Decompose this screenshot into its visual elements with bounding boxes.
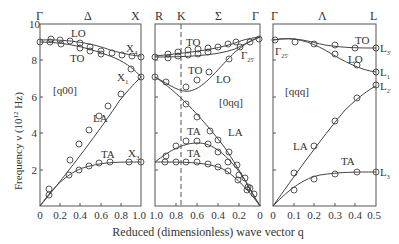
svg-text:X1: X1 xyxy=(117,71,129,86)
svg-text:K: K xyxy=(177,9,186,23)
svg-text:TA: TA xyxy=(187,125,201,137)
svg-text:TO: TO xyxy=(355,34,370,46)
svg-text:TO: TO xyxy=(186,36,201,48)
svg-text:TO: TO xyxy=(70,52,85,64)
svg-text:0.1: 0.1 xyxy=(287,209,301,221)
svg-text:0.6: 0.6 xyxy=(94,209,108,221)
y-axis-label: Frequency ν (1012 Hz) xyxy=(12,92,25,190)
svg-text:L2': L2' xyxy=(380,80,391,94)
phonon-dispersion-chart: 2 4 6 8 10 Frequency ν (1012 Hz) 00.2 0.… xyxy=(0,0,399,244)
svg-text:0.8: 0.8 xyxy=(114,209,128,221)
svg-text:0.2: 0.2 xyxy=(232,209,246,221)
svg-text:2: 2 xyxy=(32,164,38,176)
svg-text:L3: L3 xyxy=(380,166,390,180)
x-tick-labels: 00.2 0.40.6 0.81.0 1.00.8 0.60.4 0.20 00… xyxy=(37,209,381,221)
dispersion-curves xyxy=(40,37,376,206)
svg-text:4: 4 xyxy=(32,127,38,139)
y-tick-labels: 2 4 6 8 10 xyxy=(29,18,41,176)
curve-0qq-TA-lower xyxy=(155,162,260,206)
svg-text:Γ: Γ xyxy=(271,9,278,23)
svg-text:0.6: 0.6 xyxy=(190,209,204,221)
svg-text:R: R xyxy=(155,9,163,23)
curve-qqq-TA xyxy=(273,172,376,206)
svg-text:Λ: Λ xyxy=(318,9,327,23)
svg-text:0.2: 0.2 xyxy=(307,209,321,221)
svg-text:LO: LO xyxy=(216,73,231,85)
svg-text:0.5: 0.5 xyxy=(367,209,381,221)
panel-qqq-frame xyxy=(273,24,376,206)
svg-text:TO: TO xyxy=(188,64,203,76)
svg-text:LA: LA xyxy=(228,126,243,138)
svg-text:[q00]: [q00] xyxy=(53,84,77,96)
svg-text:L1: L1 xyxy=(380,66,390,80)
svg-text:Γ25': Γ25' xyxy=(275,45,288,59)
svg-text:LO: LO xyxy=(71,27,86,39)
svg-text:TA: TA xyxy=(341,155,355,167)
svg-text:0.4: 0.4 xyxy=(348,209,362,221)
svg-text:Γ25': Γ25' xyxy=(241,49,254,63)
svg-text:8: 8 xyxy=(32,54,38,66)
svg-text:LO: LO xyxy=(348,53,363,65)
svg-text:0.8: 0.8 xyxy=(169,209,183,221)
curve-0qq-TA-upper xyxy=(155,143,260,206)
svg-text:Δ: Δ xyxy=(84,9,92,23)
svg-text:Γ: Γ xyxy=(36,9,43,23)
panel-0qq-labels: R K Σ Γ TO TO LO [0qq] LA TA TA Γ25' xyxy=(155,9,259,159)
svg-text:L3': L3' xyxy=(380,42,391,56)
svg-text:0.2: 0.2 xyxy=(53,209,67,221)
svg-text:L: L xyxy=(370,9,377,23)
svg-text:0.4: 0.4 xyxy=(73,209,87,221)
svg-text:1.0: 1.0 xyxy=(149,209,163,221)
panel-qqq-labels: Γ Λ L TO LO [qqq] LA TA Γ25' L3' L1 L2' … xyxy=(271,9,391,180)
svg-text:0.3: 0.3 xyxy=(328,209,342,221)
svg-text:LA: LA xyxy=(93,112,108,124)
svg-text:1.0: 1.0 xyxy=(132,209,146,221)
svg-text:6: 6 xyxy=(32,91,38,103)
panel-q00-labels: Γ Δ X LO TO [q00] LA TA X4 X1 X3 xyxy=(36,9,140,162)
svg-text:[0qq]: [0qq] xyxy=(219,96,243,108)
svg-text:X: X xyxy=(131,9,140,23)
svg-text:X3: X3 xyxy=(128,147,140,162)
svg-text:LA: LA xyxy=(293,140,308,152)
svg-text:0: 0 xyxy=(37,209,43,221)
svg-text:0.4: 0.4 xyxy=(211,209,225,221)
svg-text:0: 0 xyxy=(270,209,276,221)
svg-text:[qqq]: [qqq] xyxy=(285,85,309,97)
svg-text:Γ: Γ xyxy=(252,9,259,23)
x-axis-label: Reduced (dimensionless) wave vector q xyxy=(112,225,303,239)
curve-qqq-LA xyxy=(273,86,376,206)
svg-text:0: 0 xyxy=(257,209,263,221)
svg-text:Σ: Σ xyxy=(215,9,222,23)
svg-text:TA: TA xyxy=(101,148,115,160)
svg-text:TA: TA xyxy=(187,147,201,159)
